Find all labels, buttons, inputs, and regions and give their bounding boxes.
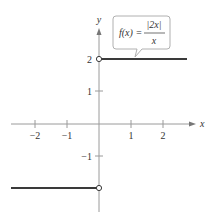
open-point-icon	[96, 56, 101, 61]
function-lhs: f(x) =	[119, 27, 142, 39]
y-axis-label: y	[96, 14, 102, 25]
function-numerator: |2x|	[147, 19, 162, 30]
y-tick-label: 1	[87, 86, 92, 97]
x-tick-label: 2	[161, 130, 166, 141]
function-denominator: x	[151, 35, 157, 46]
y-tick-label: 2	[87, 54, 92, 65]
x-tick-label: −2	[30, 130, 41, 141]
y-tick-label: −1	[81, 151, 92, 162]
function-callout: f(x) = |2x| x	[113, 16, 170, 57]
x-tick-label: −1	[62, 130, 73, 141]
graph: −2 −1 1 2 2 1 −1 x y f(x) = |2x| x	[0, 0, 212, 220]
open-point-icon	[96, 185, 101, 190]
x-axis-label: x	[199, 118, 205, 129]
x-axis-arrow-icon	[189, 122, 196, 127]
x-tick-label: 1	[129, 130, 134, 141]
y-axis-arrow-icon	[97, 28, 102, 35]
